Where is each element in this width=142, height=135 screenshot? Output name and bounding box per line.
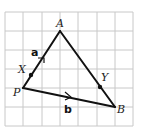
label-P: P [12, 86, 21, 99]
label-B: B [116, 103, 125, 116]
label-Y: Y [101, 71, 110, 84]
triangle-diagram: A P B X Y a b [0, 0, 142, 135]
label-vector-a: a [31, 46, 38, 59]
point-Y [98, 85, 102, 89]
label-vector-b: b [64, 103, 72, 116]
label-A: A [55, 17, 64, 30]
label-X: X [17, 63, 27, 76]
point-X [29, 73, 33, 77]
